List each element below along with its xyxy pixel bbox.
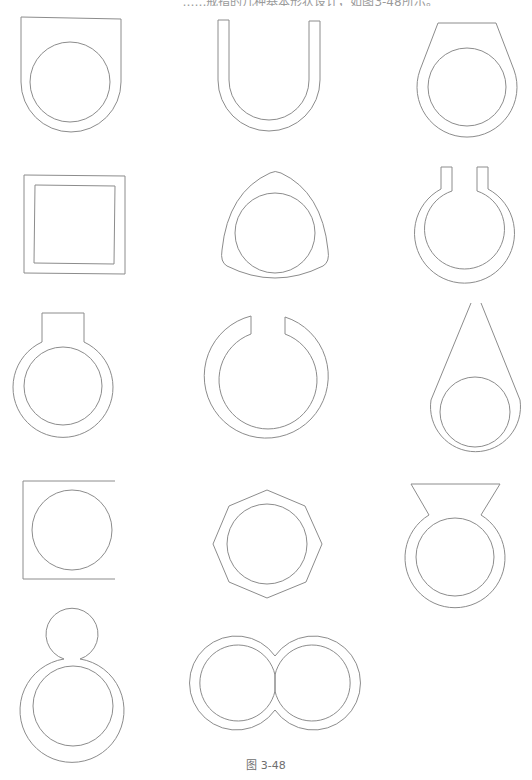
shape-rounded-triangle-ring <box>222 172 329 279</box>
shape-teardrop-ring <box>431 303 521 452</box>
shape-open-square-with-circle <box>23 481 115 579</box>
shape-figure-eight-ring <box>20 608 124 762</box>
shape-ring-with-square-tab <box>13 313 113 437</box>
shape-inverted-trapezoid-ring <box>405 484 505 608</box>
shape-square-frame <box>24 175 125 274</box>
shape-u-shape-band <box>218 20 320 131</box>
shape-open-gap-ring <box>204 316 328 438</box>
figure-caption: 图 3-48 <box>0 756 532 772</box>
shape-double-ring <box>190 636 361 730</box>
shape-open-ring-with-posts <box>415 167 515 283</box>
shape-flat-top-shield-ring <box>21 17 121 132</box>
ring-shapes-diagram <box>0 0 532 780</box>
shape-trapezoid-top-ring <box>417 23 517 137</box>
shape-octagon-ring <box>213 490 322 598</box>
